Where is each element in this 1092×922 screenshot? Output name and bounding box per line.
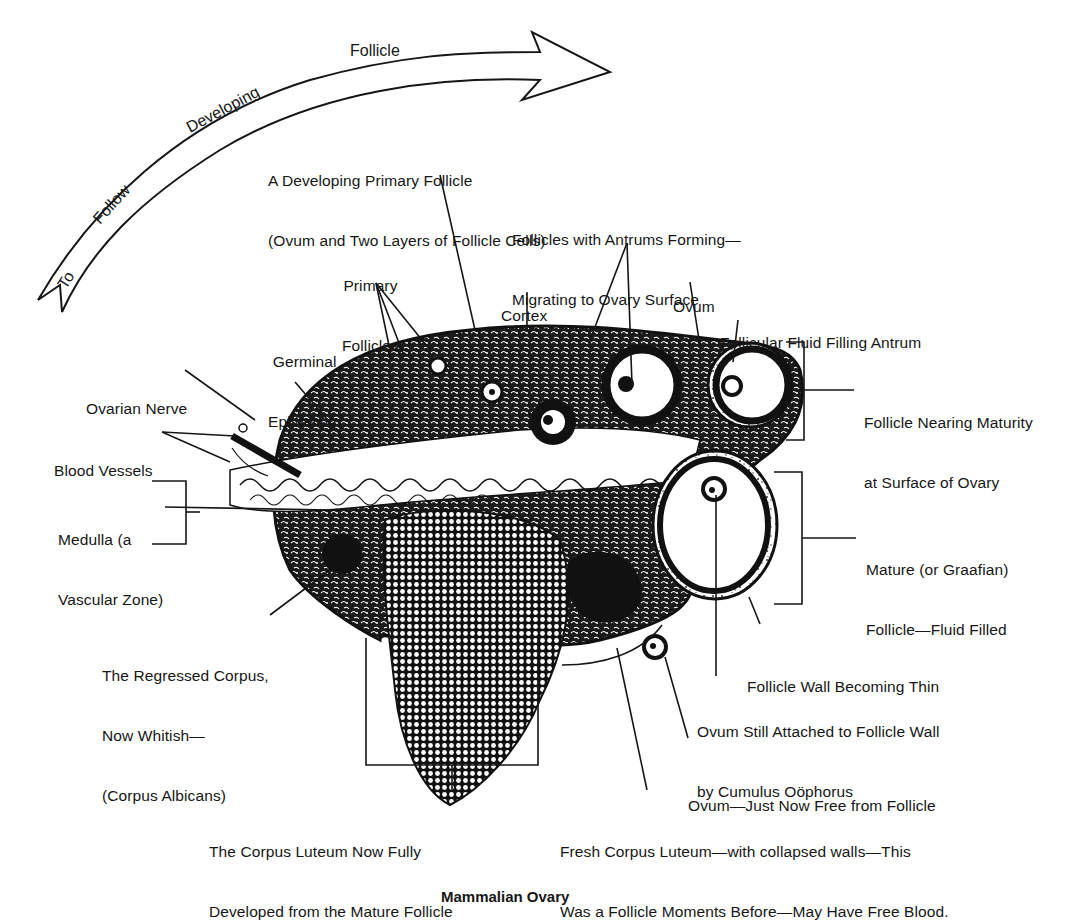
label-line: Follicular Fluid Filling Antrum xyxy=(720,333,921,353)
label-fresh-corpus-luteum: Fresh Corpus Luteum—with collapsed walls… xyxy=(560,802,949,922)
label-line: Vascular Zone) xyxy=(58,590,163,610)
label-ovum: Ovum xyxy=(673,257,715,337)
arrow-word-follicle: Follicle xyxy=(350,42,400,59)
label-line: The Regressed Corpus, xyxy=(102,666,269,686)
label-corpus-luteum-developed: The Corpus Luteum Now Fully Developed fr… xyxy=(209,802,453,922)
label-line: A Developing Primary Follicle xyxy=(268,171,546,191)
label-line: Follicles with Antrums Forming— xyxy=(512,230,741,250)
label-line: Mature (or Graafian) xyxy=(866,560,1008,580)
label-line: Follicles xyxy=(342,336,399,356)
label-line: Was a Follicle Moments Before—May Have F… xyxy=(560,902,949,922)
figure-caption: Mammalian Ovary xyxy=(441,888,569,905)
label-medulla: Medulla (a Vascular Zone) xyxy=(58,490,163,630)
label-nearing-maturity: Follicle Nearing Maturity at Surface of … xyxy=(864,373,1033,513)
ovary-diagram: To Follow Developing Follicle xyxy=(0,0,1092,922)
label-cortex: Cortex xyxy=(501,266,547,346)
label-line: Ovarian Nerve xyxy=(86,399,187,419)
label-line: Blood Vessels xyxy=(54,461,153,481)
label-regressed-corpus: The Regressed Corpus, Now Whitish— (Corp… xyxy=(102,626,269,826)
label-line: Follicle Nearing Maturity xyxy=(864,413,1033,433)
label-line: The Corpus Luteum Now Fully xyxy=(209,842,453,862)
label-line: Now Whitish— xyxy=(102,726,269,746)
label-germinal-epithelium: Germinal Epithelium xyxy=(268,312,341,452)
label-line: at Surface of Ovary xyxy=(864,473,1033,493)
label-line: Fresh Corpus Luteum—with collapsed walls… xyxy=(560,842,949,862)
label-line: (Ovum and Two Layers of Follicle Cells) xyxy=(268,231,546,251)
label-line: Developed from the Mature Follicle xyxy=(209,902,453,922)
label-line: Epithelium xyxy=(268,412,341,432)
label-line: Medulla (a xyxy=(58,530,163,550)
label-line: Germinal xyxy=(268,352,341,372)
label-line: Ovum xyxy=(673,297,715,317)
label-line: Cortex xyxy=(501,306,547,326)
label-blood-vessels: Blood Vessels xyxy=(54,421,153,501)
label-line: Ovum Still Attached to Follicle Wall xyxy=(697,722,940,742)
label-primary-follicles: Primary Follicles xyxy=(342,236,399,376)
label-developing-primary-follicle: A Developing Primary Follicle (Ovum and … xyxy=(268,131,546,271)
label-follicular-fluid: Follicular Fluid Filling Antrum xyxy=(720,293,921,373)
label-line: Primary xyxy=(342,276,399,296)
